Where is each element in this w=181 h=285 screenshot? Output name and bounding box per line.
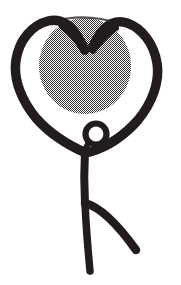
halftone-disc [39, 17, 131, 114]
artwork-svg [0, 0, 181, 285]
left-leg-stroke [85, 203, 90, 271]
torso-stroke [84, 150, 85, 204]
disc-fill [39, 18, 131, 114]
artwork-canvas: Stick figure holding up a circle brush-a… [0, 0, 181, 285]
